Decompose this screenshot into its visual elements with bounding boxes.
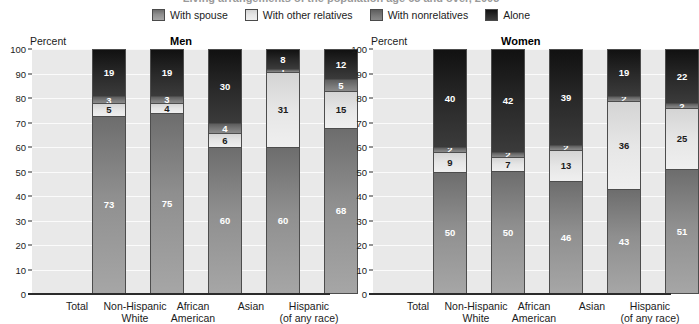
bar-segment[interactable]: 43 xyxy=(608,189,640,294)
chart-legend: With spouse With other relatives With no… xyxy=(0,6,682,23)
bar-segment-value-label: 75 xyxy=(162,199,173,209)
y-axis-tick-mark xyxy=(369,220,373,221)
y-axis-tick-mark xyxy=(369,196,373,197)
bar-segment[interactable]: 4 xyxy=(209,123,241,133)
bar-segment-value-label: 13 xyxy=(561,161,572,171)
bar-segment[interactable]: 73 xyxy=(93,116,125,293)
x-axis-category-label: AfricanAmerican xyxy=(512,300,556,324)
x-axis-category-label-line1: Asian xyxy=(238,300,264,312)
bar-segment[interactable]: 39 xyxy=(550,50,582,145)
bar-segment[interactable]: 8 xyxy=(267,50,299,69)
legend-swatch-with-nonrelatives-icon xyxy=(370,9,383,21)
x-axis-line-men xyxy=(28,293,330,295)
x-axis-category-label-line2: American xyxy=(512,312,556,324)
bar-segment[interactable]: 50 xyxy=(492,171,524,293)
bar-segment[interactable]: 19 xyxy=(93,50,125,96)
y-axis-title-men: Percent xyxy=(30,35,66,47)
y-axis-tick-mark xyxy=(28,98,32,99)
bar-segment[interactable]: 40 xyxy=(434,50,466,147)
bar-segment-value-label: 43 xyxy=(619,237,630,247)
bar-segment[interactable]: 19 xyxy=(608,50,640,96)
stacked-bar[interactable]: 3921346 xyxy=(549,49,583,294)
x-axis-category-label-line2: White xyxy=(444,312,507,324)
y-axis-tick-mark xyxy=(28,122,32,123)
x-axis-category-label-line2: (of any race) xyxy=(280,312,339,324)
y-axis-tick-label: 50 xyxy=(4,166,26,177)
y-axis-tick-label: 40 xyxy=(345,191,367,202)
bar-segment[interactable]: 36 xyxy=(608,101,640,188)
legend-label-with-spouse: With spouse xyxy=(170,9,228,21)
stacked-bar[interactable]: 304660 xyxy=(208,49,242,294)
y-axis-tick-label: 80 xyxy=(345,93,367,104)
y-axis-tick-mark xyxy=(28,49,32,50)
cropped-chart-title-text: Living arrangements of the population ag… xyxy=(183,0,500,4)
stacked-bar[interactable]: 402950 xyxy=(433,49,467,294)
bar-segment[interactable]: 19 xyxy=(151,50,183,96)
stacked-bar[interactable]: 422750 xyxy=(491,49,525,294)
x-axis-category-label-line1: Asian xyxy=(579,300,605,312)
bar-segment[interactable]: 46 xyxy=(550,181,582,293)
x-axis-category-label: AfricanAmerican xyxy=(171,300,215,324)
chart-panel-women: Percent Women 40295042275039213461923643… xyxy=(341,30,682,324)
x-axis-category-label-line1: Non-Hispanic xyxy=(444,300,507,312)
y-axis-tick-label: 0 xyxy=(345,289,367,300)
bar-segment-value-label: 36 xyxy=(619,141,630,151)
y-axis-tick-mark xyxy=(369,171,373,172)
y-axis-tick-label: 40 xyxy=(4,191,26,202)
y-axis-tick-mark xyxy=(369,98,373,99)
bar-segment-value-label: 73 xyxy=(104,200,115,210)
y-axis-tick-label: 80 xyxy=(4,93,26,104)
bar-segment[interactable]: 5 xyxy=(93,103,125,115)
bar-segment[interactable]: 60 xyxy=(267,147,299,293)
bar-segment-value-label: 22 xyxy=(677,72,688,82)
bar-segment-value-label: 39 xyxy=(561,93,572,103)
bar-segment[interactable]: 42 xyxy=(492,50,524,152)
legend-item-with-spouse: With spouse xyxy=(152,9,228,21)
bar-segment[interactable]: 30 xyxy=(209,50,241,123)
bar-segment[interactable]: 7 xyxy=(492,157,524,172)
bar-segment[interactable]: 6 xyxy=(209,133,241,148)
x-axis-category-label-line1: Total xyxy=(66,300,88,312)
x-axis-category-label-line2: American xyxy=(171,312,215,324)
bar-segment[interactable]: 9 xyxy=(434,152,466,171)
bar-segment-value-label: 4 xyxy=(164,104,169,113)
y-axis-tick-mark xyxy=(28,147,32,148)
bar-segment[interactable]: 22 xyxy=(666,50,698,103)
y-axis-tick-label: 30 xyxy=(4,215,26,226)
x-axis-category-label-line1: Hispanic xyxy=(289,300,329,312)
plot-area-women: 402950422750392134619236432222551 xyxy=(373,49,671,294)
stacked-bar[interactable]: 1923643 xyxy=(607,49,641,294)
bar-segment[interactable]: 3 xyxy=(93,96,125,103)
y-axis-tick-mark xyxy=(369,147,373,148)
y-axis-tick-label: 30 xyxy=(345,215,367,226)
bar-segment[interactable]: 51 xyxy=(666,169,698,293)
bar-segment[interactable]: 31 xyxy=(267,72,299,147)
y-axis-tick-mark xyxy=(369,269,373,270)
bar-segment[interactable]: 75 xyxy=(151,113,183,293)
y-axis-tick-mark xyxy=(369,245,373,246)
stacked-bar[interactable]: 193475 xyxy=(150,49,184,294)
legend-item-with-other-relatives: With other relatives xyxy=(245,9,353,21)
stacked-bar[interactable]: 813160 xyxy=(266,49,300,294)
bar-segment[interactable]: 50 xyxy=(434,172,466,294)
x-axis-category-label: Total xyxy=(407,300,429,312)
bar-segment-value-label: 42 xyxy=(503,96,514,106)
bar-segment[interactable]: 3 xyxy=(151,96,183,103)
stacked-bar[interactable]: 193573 xyxy=(92,49,126,294)
bar-segment-value-label: 19 xyxy=(162,68,173,78)
y-axis-tick-label: 0 xyxy=(4,289,26,300)
stacked-bar[interactable]: 2222551 xyxy=(665,49,699,294)
y-axis-title-women: Percent xyxy=(371,35,407,47)
bar-segment[interactable]: 60 xyxy=(209,147,241,293)
y-axis-tick-label: 70 xyxy=(345,117,367,128)
bar-segment[interactable]: 25 xyxy=(666,108,698,169)
y-axis-tick-label: 90 xyxy=(345,68,367,79)
y-axis-tick-mark xyxy=(28,220,32,221)
legend-item-with-nonrelatives: With nonrelatives xyxy=(370,9,469,21)
y-axis-tick-label: 20 xyxy=(4,240,26,251)
bar-segment-value-label: 30 xyxy=(220,82,231,92)
bar-segment[interactable]: 13 xyxy=(550,150,582,182)
bar-segment[interactable]: 4 xyxy=(151,103,183,113)
legend-swatch-with-other-relatives-icon xyxy=(245,9,258,21)
x-axis-line-women xyxy=(369,293,671,295)
